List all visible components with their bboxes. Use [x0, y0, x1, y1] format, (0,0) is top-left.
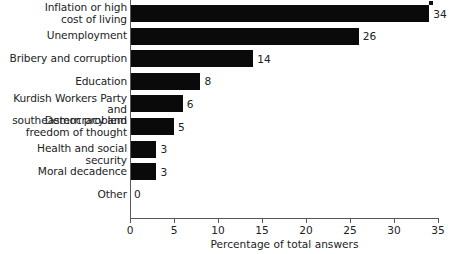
scan-artifact-speck — [429, 1, 433, 5]
x-axis-tick-label: 10 — [211, 224, 224, 236]
category-label: Democracy and freedom of thought — [0, 115, 127, 138]
x-axis-tick-label: 0 — [127, 224, 134, 236]
x-axis-tick — [394, 218, 395, 223]
bar — [130, 50, 253, 67]
bar-value-label: 14 — [257, 53, 270, 64]
bar-row: 6 — [130, 95, 438, 112]
bar-value-label: 3 — [160, 166, 167, 177]
bar-row: 5 — [130, 118, 438, 135]
x-axis-tick — [350, 218, 351, 223]
category-label: Bribery and corruption — [0, 53, 127, 64]
x-axis-tick-label: 25 — [343, 224, 356, 236]
bar — [130, 73, 200, 90]
category-label: Inflation or high cost of living — [0, 2, 127, 25]
category-axis-labels: Inflation or high cost of livingUnemploy… — [0, 0, 127, 218]
bar — [130, 5, 429, 22]
x-axis-tick-label: 5 — [171, 224, 178, 236]
bar-value-label: 34 — [433, 8, 446, 19]
y-axis-line — [130, 0, 131, 218]
bar-value-label: 3 — [160, 144, 167, 155]
x-axis-tick — [262, 218, 263, 223]
bar-value-label: 0 — [134, 189, 141, 200]
x-axis-tick-label: 30 — [387, 224, 400, 236]
bar — [130, 118, 174, 135]
bar — [130, 28, 359, 45]
bar — [130, 95, 183, 112]
bar-row: 0 — [130, 186, 438, 203]
x-axis-tick — [130, 218, 131, 223]
x-axis-title: Percentage of total answers — [130, 238, 439, 250]
bar-row: 26 — [130, 28, 438, 45]
plot-area: 342614865330 — [130, 0, 438, 218]
x-axis-tick — [174, 218, 175, 223]
x-axis-tick-label: 35 — [431, 224, 444, 236]
x-axis-tick — [306, 218, 307, 223]
x-axis-line — [130, 218, 439, 219]
bar-row: 3 — [130, 163, 438, 180]
category-label: Health and social security — [0, 143, 127, 166]
x-axis-tick-label: 15 — [255, 224, 268, 236]
bar-row: 14 — [130, 50, 438, 67]
x-axis-tick-label: 20 — [299, 224, 312, 236]
bar-value-label: 5 — [178, 121, 185, 132]
bar-row: 3 — [130, 141, 438, 158]
bar-row: 8 — [130, 73, 438, 90]
bar — [130, 141, 156, 158]
category-label: Education — [0, 76, 127, 87]
category-label: Moral decadence — [0, 166, 127, 177]
bar-row: 34 — [130, 5, 438, 22]
bar-value-label: 8 — [204, 76, 211, 87]
category-label: Unemployment — [0, 30, 127, 41]
bar-chart: Inflation or high cost of livingUnemploy… — [0, 0, 449, 254]
x-axis-tick — [218, 218, 219, 223]
bar — [130, 163, 156, 180]
bar-value-label: 6 — [187, 98, 194, 109]
bar-value-label: 26 — [363, 31, 376, 42]
x-axis-tick — [438, 218, 439, 223]
category-label: Other — [0, 189, 127, 200]
